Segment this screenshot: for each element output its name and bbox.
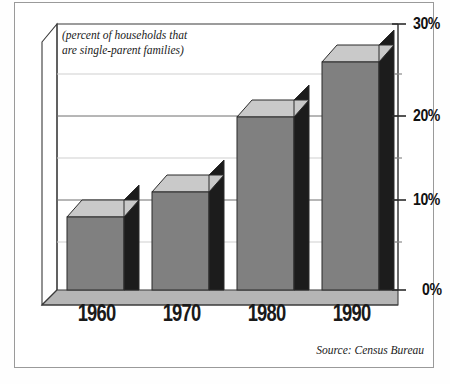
- bar-1970: [152, 160, 224, 290]
- bar-1980: [237, 85, 309, 290]
- bar-1990-front: [322, 62, 379, 290]
- y-axis-label-30: 30%: [413, 15, 440, 33]
- bar-1990: [322, 30, 394, 290]
- y-axis-label-10: 10%: [413, 191, 440, 209]
- bar-1980-front: [237, 117, 294, 290]
- y-axis-label-20: 20%: [413, 107, 440, 125]
- bar-1960-front: [67, 217, 124, 290]
- x-axis-label-1970: 1970: [148, 300, 216, 327]
- bar-1970-front: [152, 192, 209, 290]
- x-axis-label-1990: 1990: [318, 300, 386, 327]
- y-axis-label-0: 0%: [422, 281, 441, 299]
- chart-annotation: (percent of households that are single-p…: [62, 28, 262, 57]
- bar-1980-side: [294, 85, 309, 290]
- x-axis-label-1960: 1960: [63, 300, 131, 327]
- chart-left-wall: [42, 24, 57, 305]
- figure-page: (percent of households that are single-p…: [0, 0, 450, 384]
- source-attribution: Source: Census Bureau: [316, 344, 424, 356]
- chart-annotation-line2: are single-parent families): [62, 43, 262, 58]
- chart-annotation-line1: (percent of households that: [62, 28, 262, 43]
- bar-1990-side: [379, 30, 394, 290]
- x-axis-label-1980: 1980: [233, 300, 301, 327]
